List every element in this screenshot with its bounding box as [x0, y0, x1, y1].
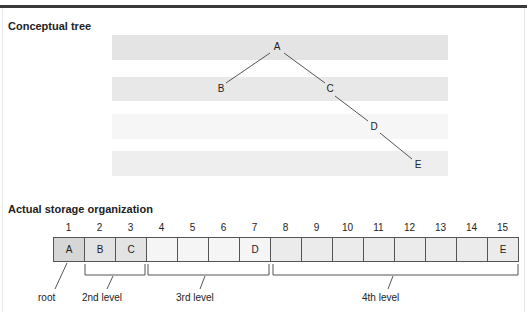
storage-cell [146, 237, 177, 262]
level-3-label: 3rd level [176, 292, 214, 303]
bracket-level-3 [148, 264, 269, 275]
tree-node-e: E [412, 159, 424, 171]
storage-index: 11 [363, 222, 394, 233]
storage-index: 2 [84, 222, 115, 233]
storage-index: 3 [115, 222, 146, 233]
storage-index: 13 [425, 222, 456, 233]
storage-cell: C [115, 237, 146, 262]
tree-edges [0, 0, 527, 312]
storage-index: 6 [208, 222, 239, 233]
storage-index: 5 [177, 222, 208, 233]
storage-cell: B [84, 237, 115, 262]
tree-node-c: C [324, 83, 336, 95]
storage-cell [301, 237, 332, 262]
storage-index: 12 [394, 222, 425, 233]
storage-cell: D [239, 237, 270, 262]
storage-index: 1 [53, 222, 84, 233]
storage-cell [270, 237, 301, 262]
storage-cell: A [53, 237, 84, 262]
tree-node-a: A [271, 41, 283, 53]
storage-index: 10 [332, 222, 363, 233]
storage-index: 14 [456, 222, 487, 233]
level-4-label: 4th level [362, 292, 399, 303]
edge-a-c [284, 53, 325, 83]
storage-cell: E [487, 237, 519, 262]
storage-index: 4 [146, 222, 177, 233]
storage-index: 7 [239, 222, 270, 233]
tree-node-b: B [215, 83, 227, 95]
storage-index: 8 [270, 222, 301, 233]
storage-cell [208, 237, 239, 262]
bracket-level-4 [273, 264, 518, 275]
storage-title: Actual storage organization [8, 203, 153, 215]
storage-cell [177, 237, 208, 262]
storage-cell [456, 237, 487, 262]
edge-c-d [335, 96, 368, 121]
storage-index: 9 [301, 222, 332, 233]
edge-a-b [226, 53, 270, 83]
storage-cell [425, 237, 456, 262]
storage-cell [363, 237, 394, 262]
edge-d-e [380, 133, 412, 159]
storage-array: ABCDE [53, 237, 519, 262]
tree-node-d: D [368, 121, 380, 133]
storage-cell [332, 237, 363, 262]
bracket-level-2 [85, 264, 145, 275]
level-2-label: 2nd level [82, 292, 122, 303]
root-pointer [55, 263, 67, 289]
storage-cell [394, 237, 425, 262]
storage-index: 15 [487, 222, 518, 233]
root-label: root [38, 292, 55, 303]
